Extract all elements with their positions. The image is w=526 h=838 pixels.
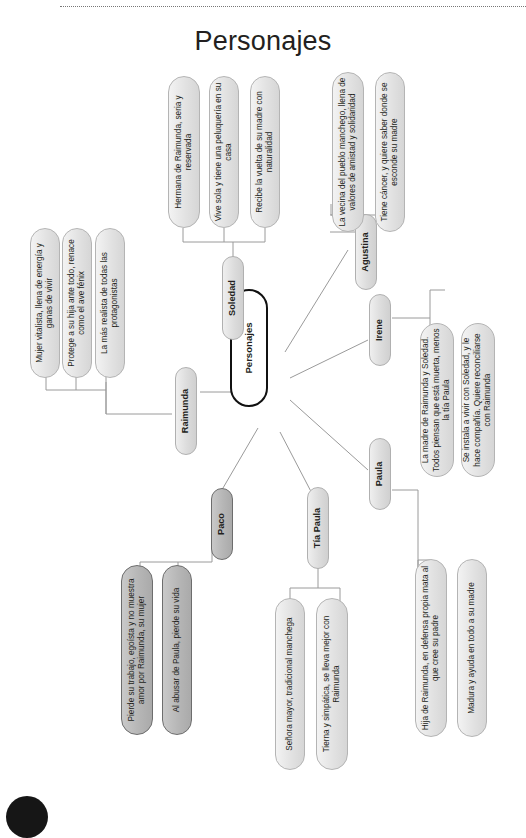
corner-bullet-decoration: [6, 796, 48, 838]
leaf-node[interactable]: Al abusar de Paula, pierde su vida: [162, 565, 192, 735]
branch-label-irene: Irene: [374, 319, 386, 341]
branch-label-agustina: Agustina: [360, 232, 372, 271]
root-label: Personajes: [243, 322, 255, 373]
leaf-text: Señora mayor, tradicional manchega: [285, 617, 296, 750]
leaf-node[interactable]: Protege a su hija ante todo, renace como…: [62, 228, 92, 378]
leaf-node[interactable]: Madura y ayuda en todo a su madre: [457, 559, 487, 737]
leaf-text: Tiene cáncer, y quiere saber donde se es…: [380, 77, 401, 227]
leaf-node[interactable]: Tierna y simpática, se lleva mejor con R…: [316, 598, 348, 770]
leaf-text: Pierde su trabajo, egoísta y no muestra …: [127, 570, 148, 730]
branch-label-paula: Paula: [374, 462, 386, 487]
leaf-text: La madre de Raimunda y Soledad. Todos pi…: [421, 328, 453, 472]
leaf-node[interactable]: Mujer vitalista, llena de energía y gana…: [30, 228, 60, 378]
leaf-node[interactable]: Tiene cáncer, y quiere saber donde se es…: [375, 72, 405, 232]
branch-node-soledad[interactable]: Soledad: [222, 256, 244, 340]
leaf-text: Madura y ayuda en todo a su madre: [467, 582, 478, 714]
leaf-text: Al abusar de Paula, pierde su vida: [172, 588, 183, 713]
branch-node-paco[interactable]: Paco: [211, 488, 233, 560]
leaf-node[interactable]: Hermana de Raimunda, seria y reservada: [168, 76, 200, 228]
branch-node-irene[interactable]: Irene: [369, 294, 391, 366]
leaf-text: Se instala a vivir con Soledad, y le hac…: [462, 328, 494, 472]
leaf-node[interactable]: La vecina del pueblo manchego, llena de …: [332, 72, 364, 232]
leaf-node[interactable]: Recibe la vuelta de su madre con natural…: [250, 76, 280, 228]
leaf-text: Hija de Raimunda, en defensa propia mata…: [421, 564, 442, 732]
leaf-text: Recibe la vuelta de su madre con natural…: [255, 81, 276, 223]
leaf-node[interactable]: Pierde su trabajo, egoísta y no muestra …: [121, 565, 153, 735]
branch-label-tia-paula: Tía Paula: [312, 508, 324, 548]
leaf-node[interactable]: Vive sola y tiene una peluquería en su c…: [209, 76, 239, 228]
leaf-text: Hermana de Raimunda, seria y reservada: [174, 81, 195, 223]
leaf-node[interactable]: La madre de Raimunda y Soledad. Todos pi…: [420, 323, 454, 477]
leaf-text: Mujer vitalista, llena de energía y gana…: [35, 233, 56, 373]
leaf-text: La más realista de todas las protagonist…: [100, 233, 121, 373]
leaf-text: Vive sola y tiene una peluquería en su c…: [214, 81, 235, 223]
leaf-node[interactable]: Señora mayor, tradicional manchega: [275, 598, 305, 770]
leaf-text: La vecina del pueblo manchego, llena de …: [338, 77, 359, 227]
leaf-node[interactable]: La más realista de todas las protagonist…: [95, 228, 125, 378]
branch-node-tia-paula[interactable]: Tía Paula: [307, 487, 329, 569]
branch-node-paula[interactable]: Paula: [369, 438, 391, 510]
branch-label-soledad: Soledad: [227, 280, 239, 316]
branch-label-paco: Paco: [216, 513, 228, 535]
leaf-text: Protege a su hija ante todo, renace como…: [67, 233, 88, 373]
leaf-text: Tierna y simpática, se lleva mejor con R…: [322, 603, 343, 765]
leaf-node[interactable]: Hija de Raimunda, en defensa propia mata…: [415, 559, 447, 737]
branch-label-raimunda: Raimunda: [180, 389, 192, 433]
branch-node-raimunda[interactable]: Raimunda: [175, 367, 197, 455]
leaf-node[interactable]: Se instala a vivir con Soledad, y le hac…: [461, 323, 495, 477]
